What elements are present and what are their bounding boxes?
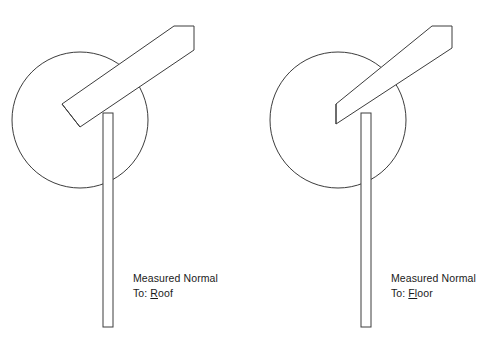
caption-roof-accel: R bbox=[150, 287, 158, 299]
sloped-beam-roof bbox=[62, 26, 194, 127]
caption-roof-rest: oof bbox=[158, 287, 173, 299]
caption-roof: Measured Normal To: Roof bbox=[133, 271, 218, 301]
sloped-beam-floor bbox=[336, 26, 452, 124]
vertical-post-floor bbox=[361, 113, 371, 327]
caption-floor-line2: To: Floor bbox=[391, 286, 476, 301]
caption-roof-prefix: To: bbox=[133, 287, 150, 299]
vertical-post-roof bbox=[103, 113, 113, 327]
caption-floor: Measured Normal To: Floor bbox=[391, 271, 476, 301]
caption-floor-prefix: To: bbox=[391, 287, 408, 299]
caption-roof-line1: Measured Normal bbox=[133, 271, 218, 286]
figure-canvas: Measured Normal To: Roof Measured Normal… bbox=[0, 0, 498, 348]
caption-floor-rest: oor bbox=[417, 287, 432, 299]
caption-floor-accel: Fl bbox=[408, 287, 417, 299]
caption-roof-line2: To: Roof bbox=[133, 286, 218, 301]
caption-floor-line1: Measured Normal bbox=[391, 271, 476, 286]
